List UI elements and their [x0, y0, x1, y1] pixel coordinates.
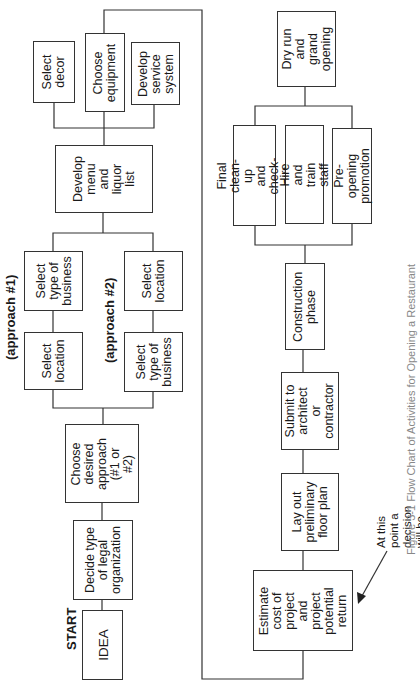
box-idea: IDEA: [82, 610, 123, 680]
box-submit-architect: Submit to architect or contractor: [281, 372, 339, 450]
box-grand-opening-text: Dry run and grand opening: [281, 27, 333, 72]
box-a2-location-text: Select location: [141, 259, 167, 302]
box-construction: Construction phase: [285, 263, 325, 350]
approach1-label: (approach #1): [3, 275, 18, 360]
box-grand-opening: Dry run and grand opening: [277, 11, 336, 87]
box-floor-plan: Lay out preliminary floor plan: [281, 473, 339, 551]
box-submit-text: Submit to architect or contractor: [284, 383, 336, 439]
box-equipment-text: Choose equipment: [92, 43, 118, 101]
box-a1-location: Select location: [24, 332, 83, 390]
figure-caption: Figure 3-1 Flow Chart of Activities for …: [405, 264, 417, 555]
box-a1-location-text: Select location: [41, 339, 67, 382]
box-hire-staff: Hire and train staff: [285, 125, 324, 224]
start-label: START: [64, 608, 79, 650]
box-legal-organization: Decide type of legal organization: [73, 520, 133, 600]
arrow-head-icon: [357, 592, 366, 604]
box-legal-text: Decide type of legal organization: [84, 526, 123, 594]
box-promotion-text: Pre-opening promotion: [333, 148, 372, 204]
box-a2-business-text: Select type of business: [134, 337, 173, 386]
box-develop-menu: Develop menu and liquor list: [55, 145, 153, 213]
box-a2-business: Select type of business: [124, 332, 183, 392]
box-idea-text: IDEA: [96, 629, 109, 661]
box-a1-business: Select type of business: [24, 251, 83, 311]
box-construction-text: Construction phase: [292, 271, 318, 341]
box-estimate-cost: Estimate cost of project and project pot…: [253, 570, 353, 651]
box-a2-location: Select location: [124, 251, 183, 311]
box-promotion: Pre-opening promotion: [332, 128, 372, 224]
box-service-text: Develop service system: [136, 51, 175, 97]
box-staff-text: Hire and train staff: [279, 162, 331, 186]
box-choose-equipment: Choose equipment: [85, 33, 125, 112]
box-decor-text: Select decor: [41, 55, 67, 90]
box-menu-text: Develop menu and liquor list: [72, 156, 137, 202]
approach2-label: (approach #2): [102, 278, 117, 363]
box-service-system: Develop service system: [131, 42, 180, 105]
box-final-cleanup: Final clean-up and check-out: [233, 125, 276, 226]
box-select-decor: Select decor: [33, 41, 75, 103]
box-approach-text: Choose desired approach (#1 or #2): [70, 437, 135, 489]
box-a1-business-text: Select type of business: [34, 256, 73, 305]
box-choose-approach: Choose desired approach (#1 or #2): [65, 424, 139, 503]
box-estimate-text: Estimate cost of project and project pot…: [258, 586, 349, 635]
box-floor-plan-text: Lay out preliminary floor plan: [291, 481, 330, 542]
